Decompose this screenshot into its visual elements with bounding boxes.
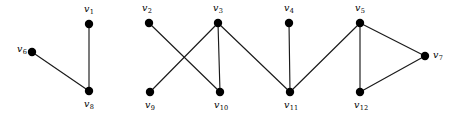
graph-edge-v3-v10 — [218, 23, 220, 92]
vertex-label-v7: v7 — [433, 49, 443, 62]
graph-vertex-v10 — [216, 88, 224, 96]
graph-vertex-v2 — [145, 19, 153, 27]
graph-edge-v12-v7 — [360, 56, 425, 92]
graph-vertex-v8 — [85, 87, 93, 95]
vertex-label-v10: v10 — [214, 99, 228, 112]
graph-vertex-v5 — [356, 19, 364, 27]
vertices-layer — [28, 19, 429, 96]
vertex-label-v4: v4 — [284, 2, 294, 15]
graph-vertex-v4 — [285, 19, 293, 27]
graph-edge-v3-v11 — [218, 23, 290, 92]
graph-vertex-v3 — [214, 19, 222, 27]
graph-vertex-v7 — [421, 52, 429, 60]
graph-figure: v1v2v3v4v5v6v7v8v9v10v11v12 — [0, 0, 457, 120]
graph-edge-v5-v11 — [290, 23, 360, 92]
graph-edge-v4-v11 — [289, 23, 290, 92]
vertex-label-v2: v2 — [142, 2, 152, 15]
edges-layer — [32, 23, 425, 92]
labels-layer: v1v2v3v4v5v6v7v8v9v10v11v12 — [17, 2, 443, 112]
vertex-label-v6: v6 — [17, 43, 27, 56]
vertex-label-v9: v9 — [145, 99, 155, 112]
graph-edge-v6-v8 — [32, 52, 89, 91]
graph-vertex-v6 — [28, 48, 36, 56]
graph-vertex-v12 — [356, 88, 364, 96]
vertex-label-v5: v5 — [355, 2, 365, 15]
graph-edge-v5-v7 — [360, 23, 425, 56]
graph-canvas: v1v2v3v4v5v6v7v8v9v10v11v12 — [0, 0, 457, 120]
vertex-label-v3: v3 — [213, 2, 223, 15]
graph-vertex-v9 — [146, 88, 154, 96]
vertex-label-v11: v11 — [284, 99, 298, 112]
graph-vertex-v1 — [85, 20, 93, 28]
vertex-label-v8: v8 — [84, 98, 94, 111]
graph-vertex-v11 — [286, 88, 294, 96]
vertex-label-v12: v12 — [354, 99, 368, 112]
vertex-label-v1: v1 — [84, 3, 94, 16]
